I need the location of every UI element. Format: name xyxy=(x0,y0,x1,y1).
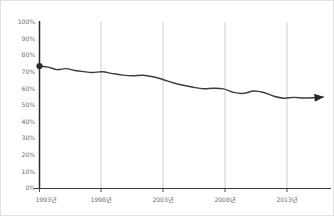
series-end-arrowhead-icon xyxy=(314,94,324,102)
x-axis xyxy=(34,189,331,193)
y-tick-label-80: 80% xyxy=(22,51,36,58)
data-series-group xyxy=(36,63,324,102)
line-chart-figure: 100% 90% 80% 70% 60% 50% 40% 30% 20% 10%… xyxy=(0,0,334,216)
x-tick-label-2013: 2013년 xyxy=(276,196,297,203)
series-start-point-marker xyxy=(36,63,42,69)
x-tick-label-1993: 1993년 xyxy=(35,196,56,203)
y-tick-label-60: 60% xyxy=(22,85,36,92)
chart-canvas: 100% 90% 80% 70% 60% 50% 40% 30% 20% 10%… xyxy=(1,1,334,216)
series-line-path xyxy=(40,66,324,98)
y-tick-label-20: 20% xyxy=(22,151,36,158)
y-tick-label-50: 50% xyxy=(22,101,36,108)
x-tick-label-2003: 2003년 xyxy=(152,196,173,203)
y-tick-label-30: 30% xyxy=(22,134,36,141)
vertical-gridlines xyxy=(101,22,287,188)
x-tick-label-1998: 1998년 xyxy=(90,196,111,203)
y-axis-tick-labels: 100% 90% 80% 70% 60% 50% 40% 30% 20% 10%… xyxy=(18,18,36,191)
y-tick-label-40: 40% xyxy=(22,118,36,125)
y-tick-label-90: 90% xyxy=(22,35,36,42)
y-tick-label-0: 0% xyxy=(25,184,35,191)
x-axis-tick-labels: 1993년 1998년 2003년 2008년 2013년 xyxy=(35,196,297,203)
y-tick-label-10: 10% xyxy=(22,168,36,175)
y-tick-label-70: 70% xyxy=(22,68,36,75)
x-tick-label-2008: 2008년 xyxy=(214,196,235,203)
y-tick-label-100: 100% xyxy=(18,18,36,25)
